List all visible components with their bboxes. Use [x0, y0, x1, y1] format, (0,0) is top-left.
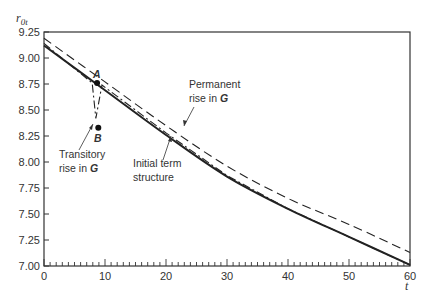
annotation-transitory-line2: rise in [59, 162, 90, 174]
y-tick-label: 8.75 [19, 78, 40, 90]
annotation-transitory-line1: Transitory [59, 148, 106, 160]
y-tick-label: 9.00 [19, 52, 40, 64]
annotation-permanent: Permanent rise in G [183, 78, 240, 126]
x-tick-label: 0 [41, 270, 47, 282]
point-b-marker [95, 125, 101, 131]
y-tick-label: 8.00 [19, 156, 40, 168]
y-axis-label: r0t [16, 11, 28, 27]
y-tick-label: 8.25 [19, 130, 40, 142]
x-tick-label: 50 [343, 270, 355, 282]
svg-text:rise in G: rise in G [189, 92, 228, 104]
annotation-permanent-line2: rise in [189, 92, 220, 104]
x-axis-ticks: 0102030405060 [41, 259, 416, 282]
annotation-initial: Initial term structure [133, 136, 182, 183]
arrowhead-transitory-icon [89, 124, 93, 130]
annotation-permanent-line1: Permanent [189, 78, 240, 90]
x-tick-label: 30 [221, 270, 233, 282]
point-a-marker [94, 80, 100, 86]
y-tick-label: 7.00 [19, 260, 40, 272]
x-tick-label: 20 [160, 270, 172, 282]
y-tick-label: 9.25 [19, 26, 40, 38]
point-b-label: B [94, 132, 102, 144]
svg-text:rise in G: rise in G [59, 162, 98, 174]
annotation-initial-line1: Initial term [133, 157, 182, 169]
point-a-label: A [92, 68, 101, 80]
y-tick-label: 7.75 [19, 182, 40, 194]
y-tick-label: 7.50 [19, 208, 40, 220]
y-tick-label: 8.50 [19, 104, 40, 116]
y-tick-label: 7.25 [19, 234, 40, 246]
x-tick-label: 40 [282, 270, 294, 282]
annotation-initial-line2: structure [133, 171, 174, 183]
x-tick-label: 10 [99, 270, 111, 282]
arrowhead-permanent-icon [183, 120, 187, 126]
term-structure-chart: 7.007.257.507.758.008.258.508.759.009.25… [0, 0, 434, 302]
